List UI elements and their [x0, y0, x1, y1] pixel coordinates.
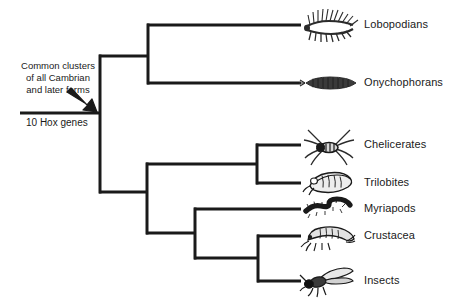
root-annotation-line-3: and later forms — [4, 84, 112, 96]
lobopodian-icon — [304, 9, 358, 42]
tip-label-crustacea: Crustacea — [364, 230, 415, 241]
phylogenetic-tree-figure: Common clusters of all Cambrian and late… — [0, 0, 454, 306]
insect-icon — [300, 268, 353, 297]
tip-label-myriapods: Myriapods — [364, 203, 416, 214]
root-scale-label: 10 Hox genes — [26, 118, 88, 128]
tree-branches — [0, 0, 454, 306]
myriapod-icon — [303, 199, 350, 218]
tip-label-trilobites: Trilobites — [364, 177, 409, 188]
tip-label-insects: Insects — [364, 275, 400, 286]
spider-icon — [304, 130, 354, 165]
root-annotation-line-2: of all Cambrian — [4, 72, 112, 84]
tip-label-lobopodians: Lobopodians — [364, 19, 428, 30]
root-annotation: Common clusters of all Cambrian and late… — [4, 60, 112, 96]
root-annotation-line-1: Common clusters — [4, 60, 112, 72]
trilobite-icon — [303, 173, 352, 195]
tip-label-onychophorans: Onychophorans — [364, 77, 443, 88]
onychophoran-icon — [299, 77, 356, 89]
crustacean-icon — [301, 227, 355, 251]
tip-label-chelicerates: Chelicerates — [364, 139, 426, 150]
